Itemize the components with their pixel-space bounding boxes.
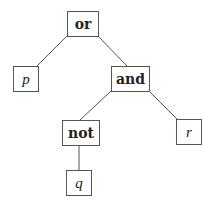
node-q: q <box>66 170 92 196</box>
edge-or-p <box>37 36 67 66</box>
node-not: not <box>62 120 100 146</box>
node-label: not <box>68 125 94 141</box>
node-label: r <box>186 124 192 141</box>
tree-edges <box>0 0 211 207</box>
node-label: and <box>116 71 145 87</box>
node-label: or <box>75 16 92 32</box>
node-label: q <box>75 175 83 192</box>
edge-and-not <box>80 91 111 120</box>
edge-or-and <box>98 36 127 66</box>
node-or: or <box>67 11 99 37</box>
edge-and-r <box>149 91 177 119</box>
node-label: p <box>22 71 30 88</box>
node-r: r <box>176 119 202 145</box>
expression-tree-diagram: or p and not r q <box>0 0 211 207</box>
node-p: p <box>13 66 39 92</box>
node-and: and <box>111 66 150 92</box>
